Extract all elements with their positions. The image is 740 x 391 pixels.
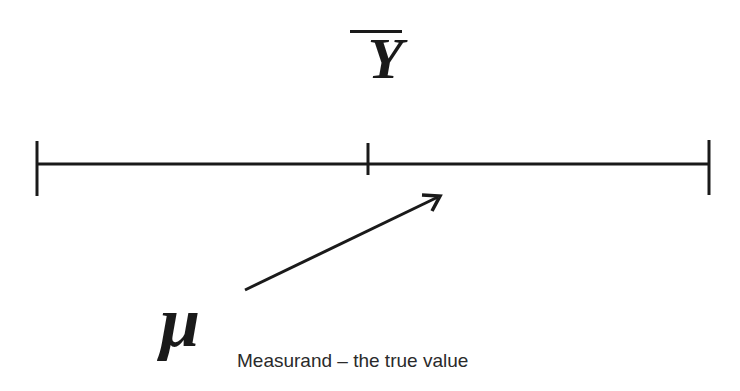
sample-mean-symbol: Y [343,30,428,88]
true-value-symbol: μ [160,286,200,358]
arrow-icon [245,195,440,290]
measurand-caption: Measurand – the true value [237,350,468,372]
measurement-diagram: Y μ Measurand – the true value [0,0,740,391]
